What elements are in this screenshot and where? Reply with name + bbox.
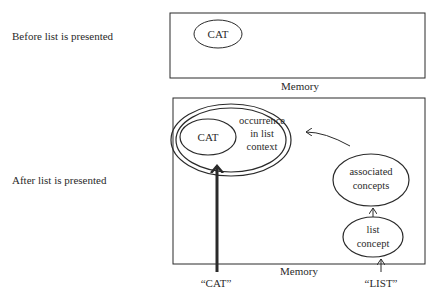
occurrence-label-3: context bbox=[247, 141, 278, 152]
memory-label-after: Memory bbox=[280, 265, 318, 277]
memory-box-before bbox=[170, 13, 425, 78]
memory-label-before: Memory bbox=[281, 80, 319, 92]
cat-node-after-label: CAT bbox=[198, 131, 219, 143]
memory-diagram: Before list is presented After list is p… bbox=[0, 0, 439, 299]
associated-concepts-label-2: concepts bbox=[353, 180, 390, 191]
arrow-associated-to-occurrence bbox=[306, 132, 350, 146]
associated-concepts-label-1: associated bbox=[349, 166, 393, 177]
cat-node-before-label: CAT bbox=[208, 28, 229, 40]
occurrence-label-2: in list bbox=[250, 128, 274, 139]
list-concept-label-1: list bbox=[367, 224, 380, 235]
list-concept-label-2: concept bbox=[357, 238, 390, 249]
input-list-label: “LIST” bbox=[365, 277, 398, 289]
occurrence-label-1: occurrence bbox=[239, 115, 285, 126]
list-concept-node bbox=[343, 217, 403, 257]
before-row-label: Before list is presented bbox=[12, 30, 114, 42]
after-row-label: After list is presented bbox=[12, 174, 107, 186]
input-cat-label: “CAT” bbox=[201, 277, 232, 289]
